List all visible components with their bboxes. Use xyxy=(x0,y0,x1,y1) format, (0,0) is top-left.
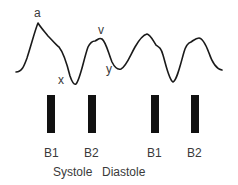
label-a-wave: a xyxy=(34,7,41,19)
label-x-descent: x xyxy=(58,74,64,86)
label-v-wave: v xyxy=(98,24,104,36)
phase-label-diastole: Diastole xyxy=(102,166,145,178)
heart-sound-bar-b2 xyxy=(191,95,199,133)
heart-sound-bar-b2 xyxy=(88,95,96,133)
heart-sound-label-b1: B1 xyxy=(44,147,59,159)
heart-sound-label-b2: B2 xyxy=(187,147,202,159)
waveform-trace xyxy=(16,23,222,84)
heart-sound-label-b2: B2 xyxy=(84,147,99,159)
jvp-waveform xyxy=(0,0,238,185)
heart-sound-bar-b1 xyxy=(151,95,159,133)
phase-label-systole: Systole xyxy=(53,166,92,178)
heart-sound-label-b1: B1 xyxy=(147,147,162,159)
heart-sound-bar-b1 xyxy=(47,95,55,133)
label-y-descent: y xyxy=(106,63,112,75)
